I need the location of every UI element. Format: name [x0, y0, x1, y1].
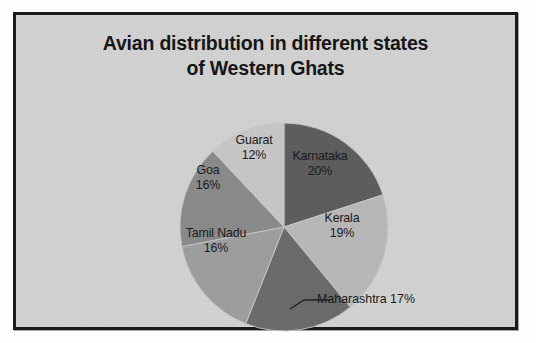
pie-label-goa-value: 16% [178, 178, 238, 193]
chart-title: Avian distribution in different states o… [16, 31, 515, 81]
pie-label-goa-name: Goa [178, 163, 238, 178]
pie-label-maharashtra-value: 17% [390, 292, 415, 306]
scanned-page: Avian distribution in different states o… [0, 0, 536, 343]
pie-label-goa: Goa 16% [178, 163, 238, 192]
pie-label-tamil-nadu-name: Tamil Nadu [168, 226, 264, 241]
chart-title-line-1: Avian distribution in different states [16, 31, 515, 56]
pie-label-kerala-name: Kerala [308, 211, 376, 226]
pie-label-karnataka: Karnataka 20% [274, 149, 366, 178]
pie-label-kerala: Kerala 19% [308, 211, 376, 240]
chart-frame: Avian distribution in different states o… [13, 12, 518, 330]
pie-label-karnataka-name: Karnataka [274, 149, 366, 164]
pie-label-kerala-value: 19% [308, 226, 376, 241]
pie-label-tamil-nadu-value: 16% [168, 241, 264, 256]
pie-label-guarat-name: Guarat [215, 133, 293, 148]
pie-label-maharashtra-name: Maharashtra [317, 292, 387, 306]
pie-label-tamil-nadu: Tamil Nadu 16% [168, 226, 264, 255]
pie-label-karnataka-value: 20% [274, 164, 366, 179]
pie-label-maharashtra: Maharashtra 17% [306, 292, 426, 307]
chart-title-line-2: of Western Ghats [16, 56, 515, 81]
